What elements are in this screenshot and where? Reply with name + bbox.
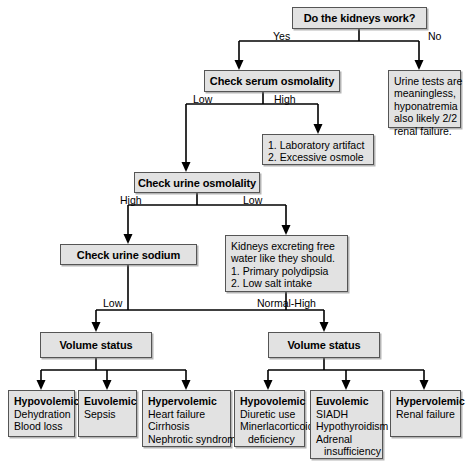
node-body: Hypervolemic Heart failure Cirrhosis Nep… (143, 391, 230, 449)
node-label: Check urine sodium (77, 249, 180, 261)
arrowhead-vsright-b3 (420, 380, 429, 390)
arrowhead-serum-high (314, 124, 323, 134)
node-euvolemic-right[interactable]: Euvolemic SIADH Hypothyroidism Adrenal i… (310, 390, 383, 459)
node-body: Euvolemic Sepsis (79, 391, 136, 424)
text-line: hyponatremia (394, 100, 455, 112)
text-line: meaningless, (394, 87, 455, 99)
node-label: Check urine osmolality (138, 177, 256, 189)
edge-label-sodium-normal-high: Normal-High (257, 298, 316, 309)
text-line: 1. Laboratory artifact (268, 139, 368, 151)
edge-label-urine-high: High (120, 195, 142, 206)
node-volume-status-left[interactable]: Volume status (40, 332, 152, 358)
node-hypervolemic-right[interactable]: Hypervolemic Renal failure (390, 390, 461, 437)
node-do-the-kidneys-work[interactable]: Do the kidneys work? (292, 7, 427, 29)
node-urine-tests-meaningless[interactable]: Urine tests are meaningless, hyponatremi… (388, 70, 461, 128)
text-line: Nephrotic syndrome (148, 433, 225, 445)
node-body: Hypovolemic Diuretic use Minerlacorticoi… (235, 391, 304, 449)
text-line: Kidneys excreting free (231, 240, 342, 252)
text-line: Minerlacorticoid (240, 420, 299, 432)
edge-label-serum-low: Low (193, 94, 212, 105)
node-hypervolemic-left[interactable]: Hypervolemic Heart failure Cirrhosis Nep… (142, 390, 231, 447)
node-label: Volume status (287, 339, 360, 351)
edge-label-sodium-low: Low (103, 298, 122, 309)
edge-label-no: No (428, 31, 441, 42)
edge-label-urine-low: Low (243, 195, 262, 206)
arrowhead-vsleft-b3 (182, 380, 191, 390)
node-header: Euvolemic (316, 395, 377, 407)
edge-label-yes: Yes (273, 31, 290, 42)
arrowhead-yes (235, 60, 244, 70)
text-line: SIADH (316, 408, 377, 420)
text-line: also likely 2/2 (394, 112, 455, 124)
arrowhead-no (415, 60, 424, 70)
node-label: Check serum osmolality (210, 75, 334, 87)
node-volume-status-right[interactable]: Volume status (268, 332, 380, 358)
arrowhead-vsleft-b1 (37, 380, 46, 390)
node-check-urine-sodium[interactable]: Check urine sodium (60, 244, 197, 265)
node-header: Hypervolemic (148, 395, 225, 407)
node-header: Euvolemic (84, 395, 131, 407)
arrowhead-urine-high (124, 234, 133, 244)
text-line: Cirrhosis (148, 420, 225, 432)
node-header: Hypervolemic (396, 395, 455, 407)
node-body: Hypovolemic Dehydration Blood loss (9, 391, 74, 437)
text-line: renal failure. (394, 125, 455, 137)
text-line: Heart failure (148, 408, 225, 420)
node-check-urine-osmolality[interactable]: Check urine osmolality (134, 172, 260, 193)
flowchart-canvas: Do the kidneys work? Check serum osmolal… (0, 0, 471, 469)
arrowhead-vsleft-b2 (103, 380, 112, 390)
node-laboratory-artifact[interactable]: 1. Laboratory artifact 2. Excessive osmo… (262, 134, 374, 165)
text-line: insufficiency (316, 445, 377, 457)
text-line: Blood loss (14, 420, 69, 432)
text-line: 2. Excessive osmole (268, 151, 368, 163)
node-header: Hypovolemic (14, 395, 69, 407)
node-body: 1. Laboratory artifact 2. Excessive osmo… (263, 135, 373, 168)
node-label: Volume status (59, 339, 132, 351)
node-hypovolemic-left[interactable]: Hypovolemic Dehydration Blood loss (8, 390, 75, 437)
text-line: Hypothyroidism (316, 420, 377, 432)
arrowhead-vsright-b2 (342, 380, 351, 390)
node-hypovolemic-right[interactable]: Hypovolemic Diuretic use Minerlacorticoi… (234, 390, 305, 447)
arrowhead-sodium-low (92, 322, 101, 332)
text-line: Adrenal (316, 433, 377, 445)
arrowhead-serum-low (182, 162, 191, 172)
node-body: Urine tests are meaningless, hyponatremi… (389, 71, 460, 141)
text-line: water like they should. (231, 252, 342, 264)
arrowhead-sodium-normalhigh (320, 322, 329, 332)
text-line: Diuretic use (240, 408, 299, 420)
text-line: Renal failure (396, 408, 455, 420)
text-line: Dehydration (14, 408, 69, 420)
node-euvolemic-left[interactable]: Euvolemic Sepsis (78, 390, 137, 437)
node-check-serum-osmolality[interactable]: Check serum osmolality (204, 70, 340, 92)
node-body: Hypervolemic Renal failure (391, 391, 460, 424)
text-line: deficiency (240, 433, 299, 445)
text-line: 2. Low salt intake (231, 277, 342, 289)
text-line: 1. Primary polydipsia (231, 265, 342, 277)
node-kidneys-excreting-free-water[interactable]: Kidneys excreting free water like they s… (225, 235, 348, 292)
edge-label-serum-high: High (274, 94, 296, 105)
node-body: Kidneys excreting free water like they s… (226, 236, 347, 294)
node-body: Euvolemic SIADH Hypothyroidism Adrenal i… (311, 391, 382, 462)
node-label: Do the kidneys work? (304, 12, 416, 24)
text-line: Sepsis (84, 408, 131, 420)
text-line: Urine tests are (394, 75, 455, 87)
node-header: Hypovolemic (240, 395, 299, 407)
arrowhead-urine-low (282, 225, 291, 235)
arrowhead-vsright-b1 (264, 380, 273, 390)
